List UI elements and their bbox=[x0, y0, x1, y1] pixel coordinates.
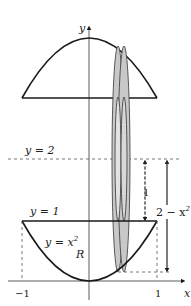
label-outer-radius: 2 − x2 bbox=[156, 205, 190, 219]
label-inner-radius: 1 bbox=[143, 187, 149, 198]
tick-one: 1 bbox=[155, 288, 161, 299]
label-region-R: R bbox=[75, 248, 84, 261]
upper-washer-cap bbox=[22, 38, 157, 98]
label-y-equals-2: y = 2 bbox=[24, 144, 54, 157]
figure-canvas: y x −1 1 y = 2 y = 1 y = x2 R 1 bbox=[0, 0, 191, 306]
label-parabola: y = x2 bbox=[44, 235, 79, 249]
x-axis-label: x bbox=[184, 287, 191, 300]
label-y-equals-1: y = 1 bbox=[29, 205, 59, 218]
y-axis-label: y bbox=[78, 22, 86, 35]
tick-neg-one: −1 bbox=[15, 288, 30, 299]
washer-slice bbox=[112, 46, 130, 272]
solid-of-revolution-figure: y x −1 1 y = 2 y = 1 y = x2 R 1 bbox=[0, 0, 191, 306]
